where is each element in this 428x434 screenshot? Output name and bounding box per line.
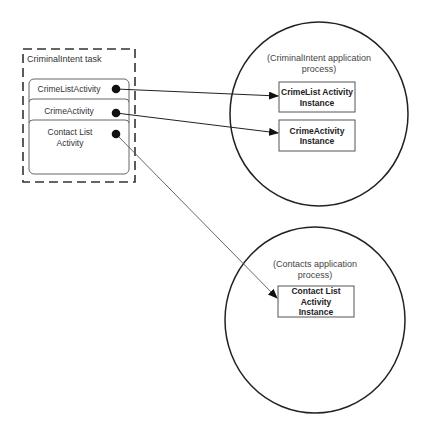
contacts-process-circle <box>225 227 405 413</box>
activity-crimelist: CrimeListActivity <box>26 84 112 95</box>
contactlist-dot-icon <box>112 130 121 139</box>
task-title: CriminalIntent task <box>27 54 102 65</box>
crimelist-dot-icon <box>112 85 121 94</box>
criminalintent-process-label: (CriminalIntent application process) <box>260 53 378 75</box>
arrow-crimelist <box>116 89 278 96</box>
activity-contactlist: Contact List Activity <box>38 127 102 148</box>
crimeactivity-dot-icon <box>112 109 121 118</box>
contactlist-instance-label: Contact List Activity Instance <box>279 287 353 317</box>
activity-divider-1 <box>29 99 129 102</box>
crimelist-instance-label: CrimeList Activity Instance <box>280 83 354 112</box>
criminalintent-process-circle <box>230 22 408 206</box>
activity-crimeactivity: CrimeActivity <box>28 106 110 117</box>
arrow-contactlist <box>116 134 277 298</box>
activity-divider-2 <box>29 120 129 123</box>
arrow-crimeactivity <box>116 113 278 133</box>
contacts-process-label: (Contacts application process) <box>265 259 365 281</box>
crimeactivity-instance-label: CrimeActivity Instance <box>280 121 354 151</box>
